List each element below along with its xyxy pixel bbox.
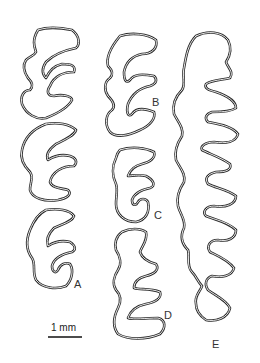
scale-bar-label: 1 mm: [51, 322, 76, 333]
specimen-c-outline: [113, 148, 154, 222]
specimen-b-outline: [105, 34, 156, 136]
panel-label-e: E: [212, 338, 219, 350]
panel-label-a: A: [74, 278, 82, 290]
specimen-e-outline: [173, 33, 238, 321]
specimen-a-outline: [21, 28, 78, 288]
tooth-outline-figure: A B C D E 1 mm: [0, 0, 260, 363]
panel-label-d: D: [164, 309, 172, 321]
specimen-d-outline: [114, 229, 164, 339]
panel-label-b: B: [152, 96, 159, 108]
scale-bar: 1 mm: [48, 322, 82, 337]
panel-label-c: C: [154, 209, 162, 221]
